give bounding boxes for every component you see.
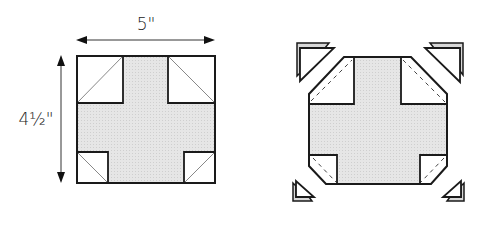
quilt-block-diagram: 5" 4½" — [0, 0, 480, 229]
arrow-right-icon — [204, 36, 215, 44]
width-label: 5" — [137, 14, 156, 34]
arrow-left-icon — [76, 36, 87, 44]
height-dimension: 4½" — [18, 55, 65, 183]
width-dimension: 5" — [76, 14, 215, 44]
left-block: 5" 4½" — [18, 14, 215, 183]
height-label: 4½" — [18, 109, 53, 129]
arrow-down-icon — [57, 172, 65, 183]
arrow-up-icon — [57, 55, 65, 66]
removed-triangle-br — [443, 181, 464, 201]
removed-triangle-bl — [293, 181, 314, 201]
right-block — [293, 43, 464, 201]
